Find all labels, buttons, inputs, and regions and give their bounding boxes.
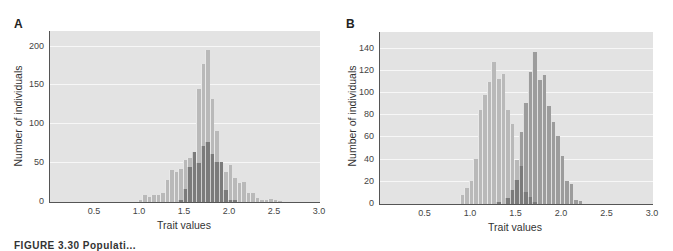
panel-a-x-axis-label: Trait values (124, 219, 244, 231)
x-tick-label: 0.5 (410, 208, 440, 218)
gridline (380, 48, 653, 49)
histogram-bar (232, 200, 237, 202)
x-tick-label: 2.0 (546, 208, 576, 218)
gridline (50, 46, 320, 47)
panel-b-label: B (346, 17, 355, 31)
y-tick-label: 20 (344, 176, 374, 186)
gridline (380, 92, 653, 93)
x-tick-label: 1.5 (169, 206, 199, 216)
y-tick-label: 0 (344, 198, 374, 208)
gridline (50, 123, 320, 124)
y-tick-label: 40 (344, 154, 374, 164)
x-tick-label: 2.5 (259, 206, 289, 216)
x-tick-label: 1.5 (501, 208, 531, 218)
panel-a-label: A (14, 17, 23, 31)
y-tick-label: 50 (14, 157, 44, 167)
gridline (380, 136, 653, 137)
y-tick-label: 60 (344, 131, 374, 141)
panel-b-plot-area (379, 32, 653, 205)
x-tick-label: 2.5 (592, 208, 622, 218)
panel-a-y-axis-label: Number of individuals (12, 36, 24, 196)
figure-caption: FIGURE 3.30 Populati... (14, 240, 136, 251)
histogram-bar (496, 202, 501, 204)
x-tick-label: 2.0 (214, 206, 244, 216)
x-tick-label: 3.0 (637, 208, 667, 218)
histogram-bar (532, 202, 537, 204)
x-tick-label: 0.5 (79, 206, 109, 216)
y-tick-label: 150 (14, 79, 44, 89)
y-tick-label: 200 (14, 41, 44, 51)
x-tick-label: 3.0 (304, 206, 334, 216)
y-tick-label: 100 (14, 118, 44, 128)
y-tick-label: 120 (344, 65, 374, 75)
histogram-bar (578, 201, 583, 204)
gridline (380, 70, 653, 71)
y-tick-label: 140 (344, 43, 374, 53)
x-tick-label: 1.0 (124, 206, 154, 216)
y-tick-label: 0 (14, 196, 44, 206)
y-tick-label: 100 (344, 87, 374, 97)
panel-a-plot-area (49, 31, 320, 203)
gridline (50, 84, 320, 85)
x-tick-label: 1.0 (455, 208, 485, 218)
histogram-bar (277, 201, 282, 202)
y-tick-label: 80 (344, 109, 374, 119)
gridline (380, 114, 653, 115)
panel-b-x-axis-label: Trait values (455, 221, 575, 233)
